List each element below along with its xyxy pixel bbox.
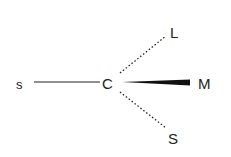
dashed-bond-l	[120, 36, 166, 73]
dashed-bond-s-large	[120, 92, 166, 128]
wedge-bond-m	[122, 80, 190, 86]
label-l: L	[170, 24, 178, 41]
label-m: M	[198, 75, 211, 92]
stereo-diagram: s C L M S	[0, 0, 231, 157]
label-s-small: s	[16, 77, 23, 92]
label-center-c: C	[102, 75, 113, 92]
label-s-large: S	[168, 130, 178, 147]
